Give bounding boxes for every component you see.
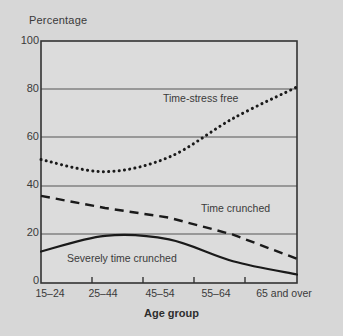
chart-container: Percentage 100 80 60 40 20 0 [0,0,343,336]
annotation-time-stress-free: Time-stress free [163,92,238,104]
annotation-severely-time-crunched: Severely time crunched [67,252,177,264]
x-tick-label-45-54: 45–54 [130,287,190,299]
plot-background [41,41,297,283]
plot-area [0,0,343,336]
x-axis-title: Age group [0,307,343,319]
x-tick-label-55-64: 55–64 [186,287,246,299]
annotation-time-crunched: Time crunched [201,202,270,214]
x-tick-label-65-and-over: 65 and over [239,287,329,299]
x-tick-label-15-24: 15–24 [20,287,80,299]
x-tick-label-25-44: 25–44 [73,287,133,299]
